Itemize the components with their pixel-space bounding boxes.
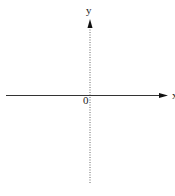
x-axis-label: x (172, 89, 175, 101)
y-axis-arrowhead-icon (88, 19, 93, 28)
y-axis-label: y (86, 4, 92, 16)
origin-label: 0 (83, 94, 89, 106)
x-axis-arrowhead-icon (159, 93, 168, 98)
coordinate-axes-diagram: y x 0 (0, 0, 175, 196)
